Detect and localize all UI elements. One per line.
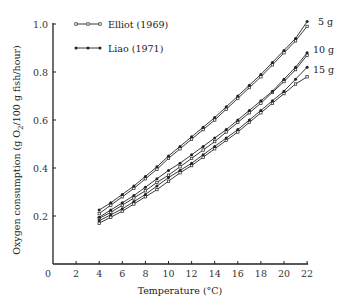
data-point bbox=[167, 180, 169, 182]
data-point bbox=[306, 20, 309, 23]
y-tick-label: 0.2 bbox=[33, 211, 48, 222]
data-point bbox=[259, 73, 262, 76]
series-10g-liao bbox=[98, 51, 309, 218]
data-point bbox=[190, 153, 193, 156]
data-point bbox=[144, 190, 146, 192]
x-axis-title: Temperature (°C) bbox=[138, 285, 223, 296]
data-point bbox=[121, 210, 123, 212]
series-annotations: 5 g10 g15 g bbox=[313, 16, 334, 75]
data-point bbox=[283, 49, 286, 52]
data-point bbox=[306, 76, 308, 78]
data-point bbox=[133, 197, 135, 199]
data-point bbox=[294, 78, 297, 81]
data-point bbox=[132, 200, 135, 203]
x-tick-label: 12 bbox=[186, 268, 198, 279]
data-point bbox=[237, 131, 239, 133]
data-point bbox=[214, 140, 216, 142]
data-point bbox=[109, 201, 112, 204]
data-point bbox=[121, 204, 123, 206]
data-point bbox=[271, 64, 273, 66]
data-point bbox=[190, 135, 193, 138]
data-point bbox=[133, 187, 135, 189]
series-5g-elliot bbox=[98, 25, 308, 215]
y-axis-title: Oxygen consumption (g O2/100 g fish/hour… bbox=[11, 45, 25, 255]
data-point bbox=[260, 102, 262, 104]
data-point bbox=[248, 121, 250, 123]
data-point bbox=[144, 186, 147, 189]
data-point bbox=[179, 148, 181, 150]
data-point bbox=[259, 109, 262, 112]
data-point bbox=[133, 203, 135, 205]
data-point bbox=[306, 66, 309, 69]
data-point bbox=[109, 209, 112, 212]
legend-item-elliot: Elliot (1969) bbox=[75, 19, 168, 30]
data-point bbox=[132, 194, 135, 197]
data-point bbox=[98, 216, 101, 219]
data-point bbox=[98, 209, 101, 212]
data-point bbox=[225, 128, 228, 131]
data-point bbox=[156, 181, 158, 183]
data-point bbox=[144, 193, 147, 196]
data-point bbox=[294, 37, 297, 40]
data-point bbox=[294, 83, 296, 85]
data-point bbox=[190, 164, 192, 166]
data-point bbox=[98, 222, 100, 224]
data-point bbox=[121, 207, 124, 210]
data-point bbox=[179, 162, 182, 165]
data-point bbox=[179, 169, 182, 172]
x-tick-label: 18 bbox=[255, 268, 267, 279]
data-point bbox=[213, 145, 216, 148]
data-point bbox=[214, 119, 216, 121]
data-point bbox=[294, 66, 297, 69]
data-point bbox=[132, 185, 135, 188]
data-point bbox=[259, 99, 262, 102]
data-point bbox=[98, 219, 101, 222]
data-point bbox=[214, 148, 216, 150]
data-point bbox=[237, 97, 239, 99]
data-point bbox=[225, 137, 228, 140]
data-point bbox=[167, 176, 170, 179]
legend-marker-icon bbox=[75, 47, 78, 50]
data-point bbox=[213, 137, 216, 140]
data-point bbox=[248, 86, 250, 88]
x-tick-label: 8 bbox=[142, 268, 148, 279]
data-point bbox=[121, 196, 123, 198]
data-point bbox=[121, 193, 124, 196]
data-point bbox=[294, 68, 296, 70]
x-tick-label: 20 bbox=[278, 268, 290, 279]
data-point bbox=[202, 126, 205, 129]
data-point bbox=[248, 84, 251, 87]
legend-marker-icon bbox=[87, 23, 89, 25]
data-point bbox=[167, 157, 169, 159]
data-point bbox=[190, 157, 192, 159]
data-point bbox=[236, 128, 239, 131]
annotation-5g: 5 g bbox=[318, 16, 333, 27]
data-point bbox=[294, 40, 296, 42]
data-point bbox=[156, 188, 158, 190]
data-point bbox=[190, 162, 193, 165]
data-point bbox=[271, 90, 274, 93]
data-point bbox=[283, 80, 285, 82]
legend-marker-icon bbox=[99, 47, 102, 50]
y-tick-label: 0.4 bbox=[33, 163, 48, 174]
data-point bbox=[225, 131, 227, 133]
y-tick-label: 1.0 bbox=[33, 19, 48, 30]
data-point bbox=[213, 116, 216, 119]
x-tick-label: 6 bbox=[119, 268, 125, 279]
data-point bbox=[167, 155, 170, 158]
legend-marker-icon bbox=[75, 23, 77, 25]
data-point bbox=[110, 204, 112, 206]
data-point bbox=[190, 138, 192, 140]
data-point bbox=[236, 95, 239, 98]
data-point bbox=[225, 108, 227, 110]
data-point bbox=[237, 121, 239, 123]
data-point bbox=[248, 112, 250, 114]
data-point bbox=[271, 99, 274, 102]
data-point bbox=[109, 213, 112, 216]
x-tick-label: 4 bbox=[96, 268, 102, 279]
legend-item-liao: Liao (1971) bbox=[75, 43, 164, 54]
data-point bbox=[202, 153, 205, 156]
data-point bbox=[155, 165, 158, 168]
data-point bbox=[202, 156, 204, 158]
data-point bbox=[179, 166, 181, 168]
